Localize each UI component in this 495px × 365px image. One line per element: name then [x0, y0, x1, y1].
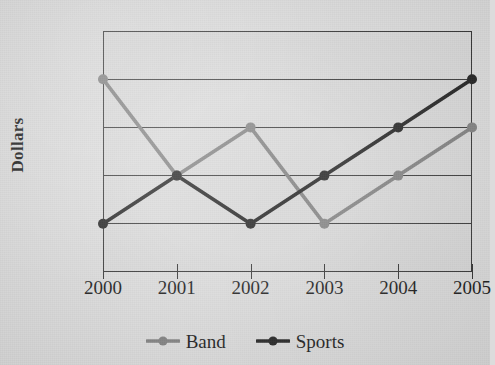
x-tick-label-2004: 2004	[363, 277, 433, 299]
x-tick-2003	[324, 264, 325, 279]
legend-item-band[interactable]: Band	[146, 332, 226, 351]
x-tick-label-2003: 2003	[289, 277, 359, 299]
data-point-sports-2001	[172, 171, 182, 181]
data-point-sports-2000	[98, 219, 108, 229]
data-point-sports-2005	[467, 74, 477, 84]
x-tick-label-2005: 2005	[437, 277, 495, 299]
data-point-sports-2002	[246, 219, 256, 229]
data-point-sports-2003	[319, 171, 329, 181]
series-line-band	[103, 79, 472, 224]
x-tick-2002	[251, 264, 252, 279]
data-point-band-2002	[246, 122, 256, 132]
data-point-band-2005	[467, 122, 477, 132]
x-tick-2005	[472, 264, 473, 279]
data-point-band-2003	[319, 219, 329, 229]
data-point-band-2004	[393, 171, 403, 181]
x-tick-2004	[398, 264, 399, 279]
x-tick-2000	[103, 264, 104, 279]
x-tick-label-2000: 2000	[68, 277, 138, 299]
data-point-sports-2004	[393, 122, 403, 132]
chart-title	[0, 0, 490, 2]
legend-label-band: Band	[186, 332, 226, 351]
data-series-layer	[103, 31, 472, 272]
legend-item-sports[interactable]: Sports	[256, 332, 345, 351]
legend-label-sports: Sports	[296, 332, 345, 351]
data-point-band-2000	[98, 74, 108, 84]
chart-legend: Band Sports	[0, 326, 490, 356]
x-tick-2001	[177, 264, 178, 279]
x-tick-label-2001: 2001	[142, 277, 212, 299]
legend-marker-sports	[256, 334, 290, 348]
y-axis-title: Dollars	[8, 100, 28, 190]
x-tick-label-2002: 2002	[216, 277, 286, 299]
legend-marker-band	[146, 334, 180, 348]
